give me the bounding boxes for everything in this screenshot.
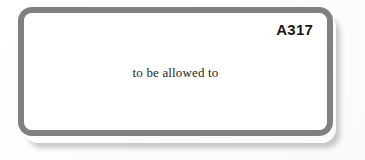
card-body: to be allowed to xyxy=(24,13,327,130)
rounded-rectangle-card: A317 to be allowed to xyxy=(18,7,333,136)
card-phrase-text: to be allowed to xyxy=(133,65,219,81)
flashcard-page: A317 to be allowed to xyxy=(0,0,365,160)
